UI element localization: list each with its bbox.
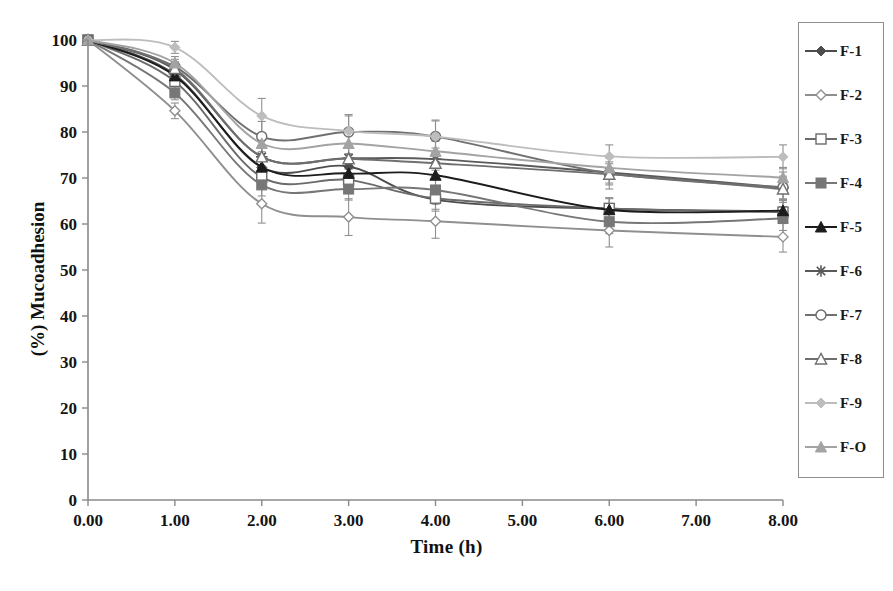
y-tick-label: 50: [60, 261, 77, 280]
legend-item-label: F-7: [838, 307, 862, 324]
x-axis-title: Time (h): [0, 536, 893, 558]
legend-marker-icon: [804, 219, 838, 235]
legend-marker-icon: [804, 87, 838, 103]
x-tick-label: 3.00: [334, 511, 364, 530]
figure-root: 01020304050607080901000.001.002.003.004.…: [0, 0, 893, 591]
y-tick-label: 90: [60, 77, 77, 96]
data-point-marker: [816, 90, 826, 100]
y-tick-label: 80: [60, 123, 77, 142]
y-axis-title: (%) Mucoadhesion: [27, 149, 49, 409]
legend-item-f-6[interactable]: F-6: [799, 249, 883, 293]
x-tick-label: 6.00: [594, 511, 624, 530]
legend-item-label: F-4: [838, 175, 862, 192]
legend-item-label: F-9: [838, 395, 862, 412]
legend-item-f-1[interactable]: F-1: [799, 29, 883, 73]
legend-item-label: F-5: [838, 219, 862, 236]
legend-item-f-8[interactable]: F-8: [799, 337, 883, 381]
data-point-marker: [257, 111, 267, 121]
axis-layer: [82, 40, 783, 506]
legend-marker-icon: [804, 307, 838, 323]
data-point-marker: [344, 184, 354, 194]
x-tick-label: 4.00: [421, 511, 451, 530]
mucoadhesion-line-chart: 01020304050607080901000.001.002.003.004.…: [0, 0, 893, 591]
data-point-marker: [816, 178, 826, 188]
legend-item-label: F-8: [838, 351, 862, 368]
data-point-marker: [816, 310, 826, 320]
legend-marker-icon: [804, 175, 838, 191]
data-point-marker: [778, 152, 788, 162]
legend-marker-icon: [804, 131, 838, 147]
data-point-marker: [170, 42, 180, 52]
data-point-marker: [604, 151, 614, 161]
y-tick-label: 20: [60, 399, 77, 418]
legend-item-label: F-O: [838, 439, 866, 456]
legend-marker-icon: [804, 439, 838, 455]
data-point-marker: [604, 217, 614, 227]
data-point-marker: [431, 216, 441, 226]
legend-item-f-3[interactable]: F-3: [799, 117, 883, 161]
y-tick-label: 0: [69, 491, 78, 510]
data-point-marker: [344, 212, 354, 222]
data-point-marker: [815, 265, 827, 277]
legend-item-label: F-6: [838, 263, 862, 280]
legend-item-label: F-1: [838, 43, 862, 60]
data-point-marker: [816, 134, 826, 144]
legend-item-f-4[interactable]: F-4: [799, 161, 883, 205]
legend-item-f-9[interactable]: F-9: [799, 381, 883, 425]
data-point-marker: [257, 180, 267, 190]
legend-marker-icon: [804, 351, 838, 367]
data-point-marker: [816, 46, 826, 56]
y-tick-label: 10: [60, 445, 77, 464]
data-point-marker: [170, 88, 180, 98]
data-point-marker: [816, 398, 826, 408]
legend-item-f-2[interactable]: F-2: [799, 73, 883, 117]
legend-item-f-7[interactable]: F-7: [799, 293, 883, 337]
x-tick-label: 7.00: [681, 511, 711, 530]
x-tick-label: 5.00: [508, 511, 538, 530]
x-tick-label: 1.00: [160, 511, 190, 530]
y-tick-label: 100: [52, 31, 78, 50]
legend-item-f-5[interactable]: F-5: [799, 205, 883, 249]
chart-legend: F-1F-2F-3F-4F-5F-6F-7F-8F-9F-O: [798, 22, 884, 478]
legend-item-f-o[interactable]: F-O: [799, 425, 883, 469]
series-layer: [82, 34, 789, 252]
y-tick-label: 30: [60, 353, 77, 372]
error-bars-f-9: [171, 41, 787, 168]
data-point-marker: [431, 185, 441, 195]
y-tick-label: 70: [60, 169, 77, 188]
x-tick-label: 8.00: [768, 511, 798, 530]
x-tick-label: 0.00: [73, 511, 103, 530]
legend-item-label: F-3: [838, 131, 862, 148]
legend-item-label: F-2: [838, 87, 862, 104]
data-point-marker: [778, 232, 788, 242]
y-tick-label: 60: [60, 215, 77, 234]
legend-marker-icon: [804, 43, 838, 59]
tick-label-layer: 01020304050607080901000.001.002.003.004.…: [52, 31, 798, 530]
legend-marker-icon: [804, 395, 838, 411]
y-tick-label: 40: [60, 307, 77, 326]
x-tick-label: 2.00: [247, 511, 277, 530]
data-point-marker: [257, 199, 267, 209]
legend-marker-icon: [804, 263, 838, 279]
